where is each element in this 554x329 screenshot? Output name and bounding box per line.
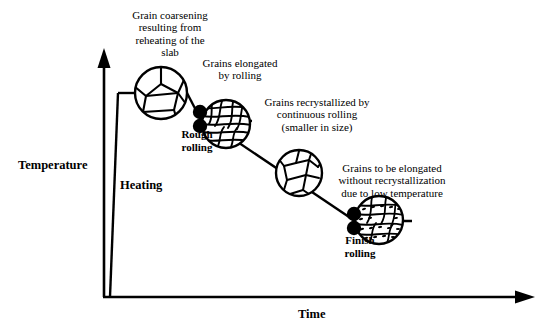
figure-canvas: Temperature Time Heating Grain coarsenin… [0, 0, 554, 329]
annotation-grains-elongated: Grains elongated by rolling [186, 57, 294, 82]
roll-top-finish [347, 207, 361, 221]
annotation-grains-recrystallized: Grains recrystallized by continuous roll… [254, 96, 380, 133]
microstructure-fine-grains [274, 148, 324, 198]
x-axis-label: Time [298, 307, 326, 322]
stage-label-finish-rolling: Finish rolling [331, 234, 389, 259]
stage-label-rough-rolling: Rough rolling [168, 128, 226, 153]
y-axis-arrowhead [98, 48, 111, 68]
curve-heating-segment [110, 93, 118, 297]
roll-top-rough [193, 105, 207, 119]
annotation-no-recrystallization: Grains to be elongated without recrystal… [322, 162, 462, 199]
heating-label: Heating [120, 178, 162, 193]
microstructure-coarse-grains [133, 65, 191, 123]
y-axis-label: Temperature [18, 158, 87, 173]
x-axis-arrowhead [515, 291, 535, 304]
annotation-grain-coarsening: Grain coarsening resulting from reheatin… [112, 9, 228, 59]
